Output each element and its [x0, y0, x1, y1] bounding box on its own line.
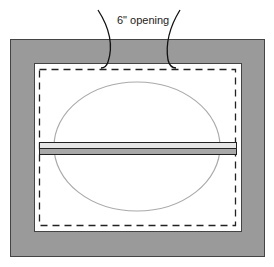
horizontal-bar [40, 143, 237, 155]
diagram-canvas [0, 0, 274, 267]
opening-label: 6" opening [117, 14, 169, 26]
